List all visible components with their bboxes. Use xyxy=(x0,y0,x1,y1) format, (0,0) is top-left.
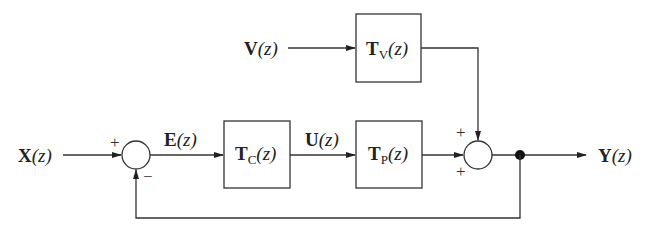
disturbance-output-wire xyxy=(421,48,478,140)
output-summing-junction xyxy=(464,141,492,169)
error-sum-minus-sign: − xyxy=(143,167,153,186)
controller-block-label: TC(z) xyxy=(235,143,276,167)
disturbance-signal-label: V(z) xyxy=(244,38,278,60)
error-signal-label: E(z) xyxy=(164,129,197,151)
block-diagram: X(z) + − E(z) TC(z) U(z) TP(z) V(z) TV(z… xyxy=(0,0,654,227)
error-sum-plus-sign: + xyxy=(110,133,120,152)
input-signal-label: X(z) xyxy=(18,145,52,167)
output-sum-top-plus-sign: + xyxy=(456,123,466,142)
output-signal-label: Y(z) xyxy=(598,145,632,167)
plant-block-label: TP(z) xyxy=(368,143,408,167)
control-signal-label: U(z) xyxy=(305,129,339,151)
error-summing-junction xyxy=(122,141,150,169)
output-sum-bottom-plus-sign: + xyxy=(456,162,466,181)
